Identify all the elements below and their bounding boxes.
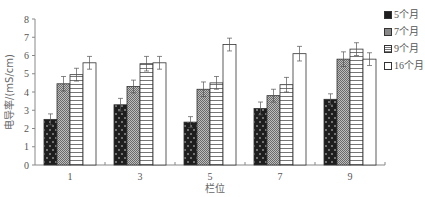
y-tick-label: 3 xyxy=(24,105,29,116)
legend-swatch-white-icon xyxy=(384,62,392,70)
y-tick-label: 5 xyxy=(24,68,29,79)
bar xyxy=(280,85,293,165)
x-tick-label: 5 xyxy=(208,171,213,182)
bar xyxy=(140,64,153,165)
x-tick-label: 1 xyxy=(68,171,73,182)
legend-item: 9个月 xyxy=(384,40,424,57)
bar xyxy=(267,96,280,165)
x-tick-label: 7 xyxy=(278,171,283,182)
bar xyxy=(324,99,337,165)
x-axis-title: 栏位 xyxy=(205,182,225,194)
bar xyxy=(184,122,197,165)
bar xyxy=(114,105,127,165)
legend-swatch-dark-icon xyxy=(384,11,392,19)
bar xyxy=(197,89,210,165)
bar xyxy=(223,45,236,165)
y-tick-label: 1 xyxy=(24,141,29,152)
legend: 5个月 7个月 9个月 16个月 xyxy=(384,6,424,74)
bar xyxy=(83,63,96,165)
bar xyxy=(337,59,350,165)
y-tick-label: 0 xyxy=(24,160,29,171)
bar xyxy=(293,54,306,165)
bar xyxy=(210,83,223,165)
bar xyxy=(127,87,140,165)
y-tick-label: 2 xyxy=(24,123,29,134)
legend-item: 5个月 xyxy=(384,6,424,23)
y-tick-label: 8 xyxy=(24,14,29,25)
y-axis-title: 电导率/(mS/cm) xyxy=(3,54,15,130)
bar xyxy=(254,108,267,165)
legend-swatch-gray-icon xyxy=(384,28,392,36)
x-tick-label: 9 xyxy=(348,171,353,182)
legend-label: 16个月 xyxy=(394,57,424,74)
legend-item: 16个月 xyxy=(384,57,424,74)
bars xyxy=(44,38,376,165)
bar xyxy=(350,49,363,165)
legend-label: 9个月 xyxy=(394,40,419,57)
legend-swatch-stripe-icon xyxy=(384,45,392,53)
bar xyxy=(363,59,376,165)
bar-chart: 01234567813579栏位电导率/(mS/cm) xyxy=(0,0,425,197)
legend-label: 7个月 xyxy=(394,23,419,40)
x-tick-label: 3 xyxy=(138,171,143,182)
y-tick-label: 6 xyxy=(24,50,29,61)
y-tick-label: 4 xyxy=(24,87,29,98)
y-tick-label: 7 xyxy=(24,32,29,43)
legend-item: 7个月 xyxy=(384,23,424,40)
bar xyxy=(153,63,166,165)
bar xyxy=(70,75,83,165)
legend-label: 5个月 xyxy=(394,6,419,23)
bar xyxy=(57,84,70,165)
bar xyxy=(44,119,57,165)
